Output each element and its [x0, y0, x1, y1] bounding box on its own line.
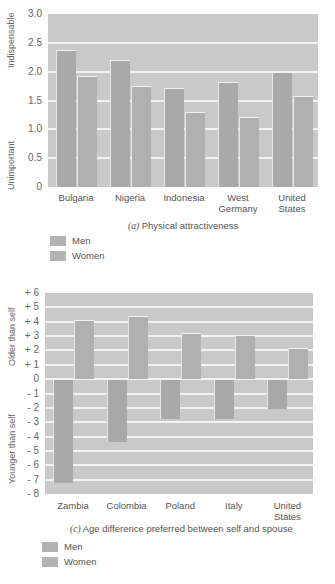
y-tick-label: + 4 [15, 316, 39, 327]
y-tick-label: + 1 [15, 359, 39, 370]
bar-men-united-states [267, 379, 287, 409]
gridline [45, 464, 313, 466]
legend-men: Men [42, 541, 82, 552]
bar-men-poland [160, 379, 180, 419]
x-tick-label: Poland [150, 500, 210, 511]
x-tick-label: Colombia [97, 500, 157, 511]
bar-men-colombia [107, 379, 127, 442]
x-tick-label: Zambia [43, 500, 103, 511]
legend-swatch-men [42, 542, 58, 552]
y-tick-label: + 6 [15, 287, 39, 298]
y-tick-label: + 2 [15, 344, 39, 355]
y-tick-label: - 8 [15, 488, 39, 499]
bar-men-italy [214, 379, 234, 419]
legend-women: Women [42, 556, 97, 567]
y-tick-label: + 3 [15, 330, 39, 341]
bar-women-poland [181, 333, 201, 379]
y-tick-label: - 5 [15, 445, 39, 456]
gridline [45, 450, 313, 452]
y-tick-label: - 7 [15, 474, 39, 485]
caption-text: Age difference preferred between self an… [83, 523, 293, 534]
bar-women-united-states [288, 348, 308, 380]
gridline [45, 479, 313, 481]
legend-label-men: Men [64, 541, 82, 552]
bar-women-colombia [128, 316, 148, 379]
y-tick-label: - 4 [15, 431, 39, 442]
y-tick-label: - 2 [15, 402, 39, 413]
legend-swatch-women [42, 557, 58, 567]
x-tick-label: UnitedStates [257, 500, 317, 522]
y-tick-label: + 5 [15, 301, 39, 312]
chart-caption: (c) Age difference preferred between sel… [70, 523, 293, 534]
y-tick-label: - 1 [15, 388, 39, 399]
caption-letter: (c) [70, 524, 81, 534]
plot-area [45, 293, 313, 494]
y-tick-label: - 3 [15, 416, 39, 427]
legend-label-women: Women [64, 556, 97, 567]
gridline [45, 421, 313, 423]
y-tick-label: - 6 [15, 459, 39, 470]
y-tick-label: 0 [15, 373, 39, 384]
x-tick-label: Italy [204, 500, 264, 511]
bar-women-zambia [74, 320, 94, 379]
gridline [45, 436, 313, 438]
bar-men-zambia [53, 379, 73, 482]
chart-age-difference: Older than self Younger than self (c) Ag… [0, 0, 335, 584]
gridline [45, 306, 313, 308]
bar-women-italy [235, 335, 255, 380]
